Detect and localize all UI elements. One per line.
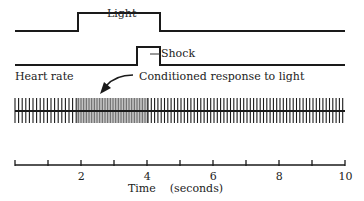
time-tick-label: 8 bbox=[276, 171, 283, 182]
light-trace bbox=[15, 13, 345, 31]
light-label: Light bbox=[107, 8, 136, 19]
shock-label: Shock bbox=[161, 48, 195, 59]
time-tick-label: 10 bbox=[339, 171, 353, 182]
time-tick-label: 2 bbox=[78, 171, 85, 182]
time-tick-label: 6 bbox=[210, 171, 217, 182]
heart-rate-label: Heart rate bbox=[15, 71, 74, 82]
diagram-canvas bbox=[0, 0, 364, 201]
arrow-icon bbox=[100, 75, 133, 94]
time-tick-label: 4 bbox=[144, 171, 151, 182]
time-axis-title: Time (seconds) bbox=[128, 183, 223, 194]
conditioned-response-label: Conditioned response to light bbox=[139, 71, 304, 82]
